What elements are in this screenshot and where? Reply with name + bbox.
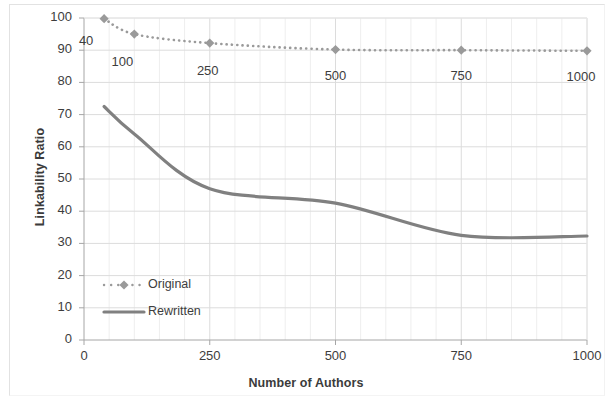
point-annotation-750: 750 (436, 68, 486, 83)
legend-item-rewritten: Rewritten (148, 304, 201, 318)
y-tick-label: 50 (32, 170, 72, 185)
x-tick-marks (84, 340, 587, 345)
legend-item-original: Original (148, 277, 191, 291)
y-tick-label: 0 (32, 331, 72, 346)
x-tick-label: 750 (431, 348, 491, 363)
y-tick-label: 40 (32, 202, 72, 217)
chart-container: Linkability Ratio Number of Authors 0102… (0, 0, 612, 403)
x-tick-label: 250 (180, 348, 240, 363)
y-tick-label: 60 (32, 138, 72, 153)
y-tick-label: 70 (32, 106, 72, 121)
x-tick-label: 0 (54, 348, 114, 363)
x-tick-label: 1000 (557, 348, 612, 363)
plot-area (0, 0, 612, 403)
legend-glyphs (104, 280, 144, 312)
y-tick-label: 80 (32, 73, 72, 88)
point-annotation-250: 250 (183, 63, 233, 78)
point-annotation-40: 40 (61, 33, 111, 48)
y-tick-label: 20 (32, 267, 72, 282)
series-line-original (100, 14, 592, 55)
x-axis-title: Number of Authors (0, 376, 612, 390)
y-tick-label: 30 (32, 234, 72, 249)
y-tick-label: 10 (32, 299, 72, 314)
series-line-rewritten (104, 107, 587, 238)
x-tick-label: 500 (306, 348, 366, 363)
y-tick-marks (79, 18, 84, 340)
y-tick-label: 100 (32, 9, 72, 24)
point-annotation-100: 100 (97, 54, 147, 69)
point-annotation-1000: 1000 (556, 69, 606, 84)
point-annotation-500: 500 (311, 68, 361, 83)
